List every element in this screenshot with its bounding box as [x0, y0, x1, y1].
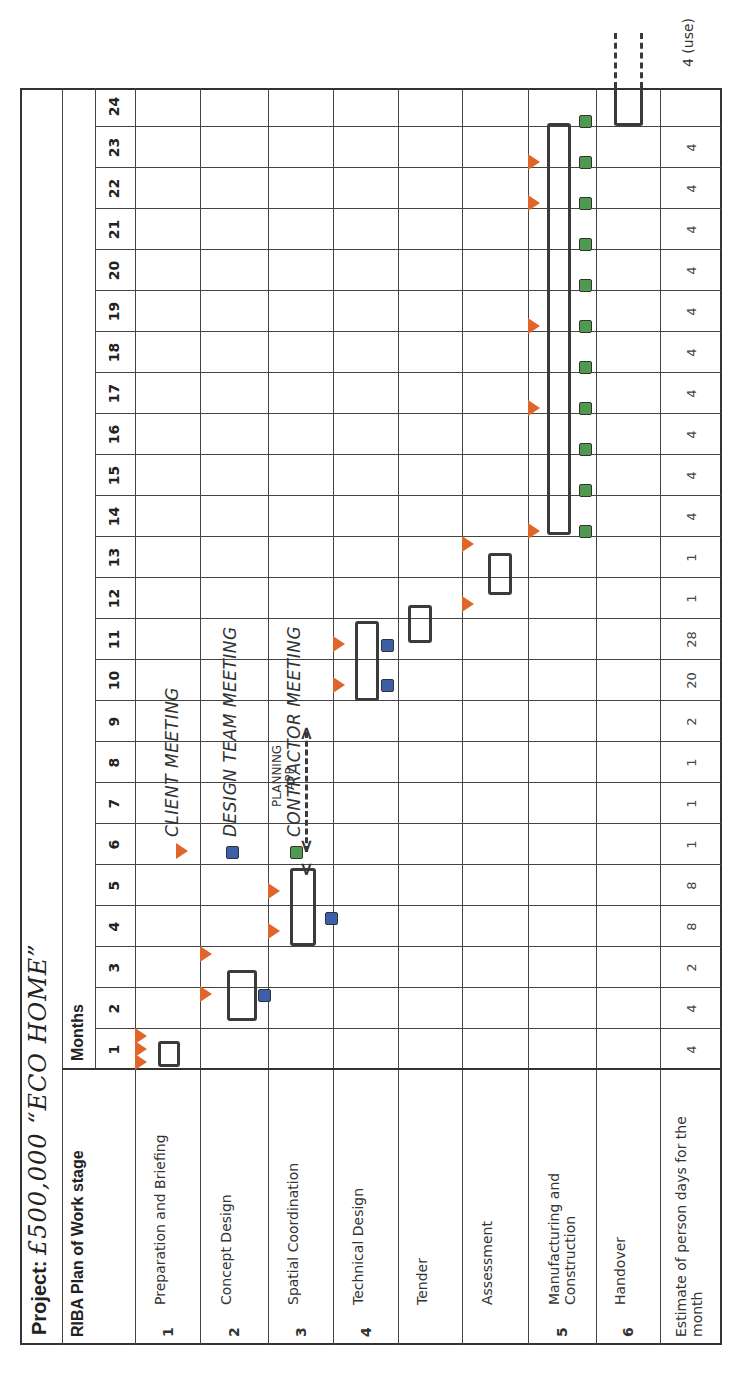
- month-7: 7: [106, 783, 122, 824]
- estimate-value: 1: [684, 578, 699, 619]
- contractor-meeting-icon: [579, 115, 592, 128]
- estimate-value: 4: [684, 988, 699, 1029]
- estimate-value: 4: [684, 414, 699, 455]
- estimate-label: Estimate of person days for the month: [673, 1077, 705, 1337]
- month-16: 16: [106, 414, 122, 455]
- stage-bar: [158, 1041, 180, 1067]
- design-meeting-icon: [381, 679, 394, 692]
- client-meeting-icon: [333, 677, 345, 693]
- month-5: 5: [106, 865, 122, 906]
- client-meeting-icon: [333, 636, 345, 652]
- estimate-value: 1: [684, 824, 699, 865]
- stage-number: 6: [620, 1327, 636, 1337]
- stage-bar: [355, 621, 379, 701]
- stage-number: 3: [293, 1327, 309, 1337]
- month-20: 20: [106, 250, 122, 291]
- design-meeting-icon: [258, 989, 271, 1002]
- estimate-value: 1: [684, 783, 699, 824]
- month-1: 1: [106, 1029, 122, 1070]
- stage-bar: [614, 88, 643, 126]
- stage-bar: [547, 123, 571, 535]
- client-meeting-icon: [462, 596, 474, 612]
- months-header: Months: [69, 1004, 87, 1061]
- project-title: Project: £500,000 “ECO HOME”: [24, 943, 52, 1335]
- month-19: 19: [106, 291, 122, 332]
- month-13: 13: [106, 537, 122, 578]
- estimate-note: 4 (use): [680, 18, 696, 67]
- client-meeting-icon: [268, 923, 280, 939]
- stage-bar: [227, 970, 257, 1021]
- estimate-value: 1: [684, 742, 699, 783]
- estimate-value: 2: [684, 947, 699, 988]
- estimate-value: 4: [684, 291, 699, 332]
- design-meeting-icon: [381, 639, 394, 652]
- client-meeting-icon: [528, 523, 540, 539]
- stage-bar: [290, 868, 316, 946]
- month-6: 6: [106, 824, 122, 865]
- stage-label: Manufacturing and Construction: [546, 1085, 578, 1305]
- month-17: 17: [106, 373, 122, 414]
- estimate-value: 8: [684, 865, 699, 906]
- design-meeting-icon: [226, 846, 239, 859]
- contractor-meeting-icon: [579, 402, 592, 415]
- month-4: 4: [106, 906, 122, 947]
- legend-design: DESIGN TEAM MEETING: [220, 626, 240, 837]
- estimate-value: 4: [684, 127, 699, 168]
- client-meeting-icon: [200, 986, 212, 1002]
- client-meeting-icon: [528, 400, 540, 416]
- contractor-meeting-icon: [579, 361, 592, 374]
- stage-number: 5: [554, 1327, 570, 1337]
- title-prefix: Project:: [28, 1255, 50, 1335]
- month-10: 10: [106, 660, 122, 701]
- planning-app-label: PLANNING: [270, 745, 284, 807]
- month-3: 3: [106, 947, 122, 988]
- stage-label: Technical Design: [350, 1085, 366, 1305]
- stage-label: Concept Design: [218, 1085, 234, 1305]
- stage-number: 1: [160, 1327, 176, 1337]
- client-meeting-icon: [462, 536, 474, 552]
- contractor-meeting-icon: [579, 443, 592, 456]
- client-meeting-icon: [528, 154, 540, 170]
- stage-number: 2: [226, 1327, 242, 1337]
- planning-app-label-2: APP: [283, 767, 297, 790]
- stage-column-header: RIBA Plan of Work stage: [69, 1150, 87, 1337]
- stage-label: Assessment: [479, 1085, 495, 1305]
- estimate-value: 1: [684, 537, 699, 578]
- client-meeting-icon: [135, 1028, 147, 1044]
- estimate-value: 4: [684, 250, 699, 291]
- estimate-value: 4: [684, 209, 699, 250]
- month-14: 14: [106, 496, 122, 537]
- estimate-value: 2: [684, 701, 699, 742]
- client-meeting-icon: [176, 843, 188, 859]
- month-15: 15: [106, 455, 122, 496]
- estimate-value: 4: [684, 373, 699, 414]
- month-22: 22: [106, 168, 122, 209]
- month-23: 23: [106, 127, 122, 168]
- contractor-meeting-icon: [579, 320, 592, 333]
- estimate-value: 4: [684, 1029, 699, 1070]
- month-24: 24: [106, 86, 122, 127]
- gantt-chart: Project: £500,000 “ECO HOME” RIBA Plan o…: [0, 0, 741, 1397]
- month-21: 21: [106, 209, 122, 250]
- arrow-right-icon: >: [297, 726, 315, 741]
- estimate-value: 20: [684, 660, 699, 701]
- stage-label: Preparation and Briefing: [152, 1085, 168, 1305]
- design-meeting-icon: [325, 912, 338, 925]
- estimate-value: 4: [684, 455, 699, 496]
- month-8: 8: [106, 742, 122, 783]
- legend-client: CLIENT MEETING: [162, 687, 182, 837]
- contractor-meeting-icon: [579, 279, 592, 292]
- planning-app-arrow: [305, 732, 308, 852]
- contractor-meeting-icon: [579, 197, 592, 210]
- estimate-value: 4: [684, 332, 699, 373]
- stage-label: Handover: [612, 1085, 628, 1305]
- stage-label: Spatial Coordination: [285, 1085, 301, 1305]
- estimate-value: 28: [684, 619, 699, 660]
- estimate-value: 8: [684, 906, 699, 947]
- contractor-meeting-icon: [579, 156, 592, 169]
- month-2: 2: [106, 988, 122, 1029]
- month-12: 12: [106, 578, 122, 619]
- title-name: £500,000 “ECO HOME”: [24, 943, 52, 1255]
- arrow-left-icon: <: [297, 839, 315, 854]
- month-9: 9: [106, 701, 122, 742]
